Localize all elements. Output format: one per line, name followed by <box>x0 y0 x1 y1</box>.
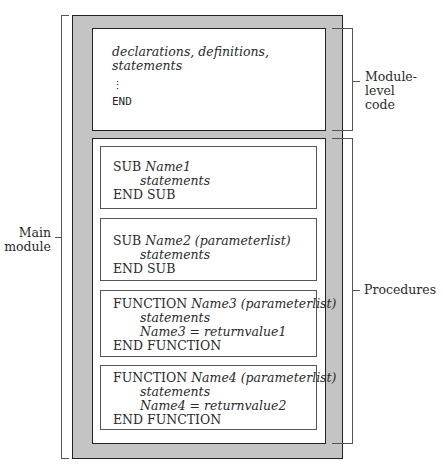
proc-signature: Name2 (parameterlist) <box>145 233 290 248</box>
procedure-sub-name1: SUB Name1 statements END SUB <box>100 146 317 209</box>
proc-signature: Name3 (parameterlist) <box>191 296 336 311</box>
proc-signature: Name4 (parameterlist) <box>191 370 336 385</box>
proc-end: END SUB <box>113 262 291 276</box>
module-level-bracket <box>332 28 353 131</box>
main-module-bracket <box>61 15 69 459</box>
proc-end: END SUB <box>113 188 210 202</box>
proc-keyword: SUB <box>113 159 141 174</box>
proc-body-line: Name3 = returnvalue1 <box>113 325 336 339</box>
proc-body-line: statements <box>113 174 210 188</box>
proc-end: END FUNCTION <box>113 339 336 353</box>
proc-end: END FUNCTION <box>113 413 336 427</box>
module-line-2: statements <box>112 59 269 73</box>
procedures-label: Procedures <box>364 283 436 297</box>
procedures-bracket-tick <box>353 290 360 291</box>
proc-body-line: Name4 = returnvalue2 <box>113 399 336 413</box>
proc-signature: Name1 <box>145 159 191 174</box>
proc-keyword: SUB <box>113 233 141 248</box>
procedure-function-name3: FUNCTION Name3 (parameterlist) statement… <box>100 290 317 357</box>
proc-keyword: FUNCTION <box>113 296 187 311</box>
main-module-bracket-tick <box>55 237 61 238</box>
module-line-1: declarations, definitions, <box>112 45 269 59</box>
procedure-function-name4: FUNCTION Name4 (parameterlist) statement… <box>100 365 317 430</box>
procedures-bracket <box>332 138 353 444</box>
module-end: END <box>112 95 269 109</box>
proc-keyword: FUNCTION <box>113 370 187 385</box>
procedure-sub-name2: SUB Name2 (parameterlist) statements END… <box>100 218 317 281</box>
main-module-label: Main module <box>0 226 51 254</box>
proc-body-line: statements <box>113 311 336 325</box>
ellipsis: ⋮ <box>112 79 269 93</box>
proc-body-line: statements <box>113 248 291 262</box>
module-level-code-label: Module-level code <box>365 70 443 112</box>
module-level-bracket-tick <box>353 81 360 82</box>
module-level-code-box: declarations, definitions, statements ⋮ … <box>92 28 326 131</box>
proc-body-line: statements <box>113 385 336 399</box>
